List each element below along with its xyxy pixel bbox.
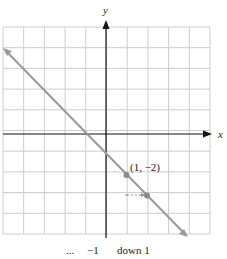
x-axis-arrow-icon — [203, 131, 212, 138]
rise-text: down 1 — [117, 244, 150, 256]
coordinate-graph: x y (1, −2) — [0, 0, 227, 259]
x-axis — [3, 131, 212, 138]
slope-numerator: −1 — [87, 244, 99, 256]
caption-ellipsis: ... — [66, 244, 74, 256]
plotted-line — [3, 48, 188, 237]
y-axis — [103, 20, 110, 238]
run-annotation — [126, 193, 147, 197]
run-start-dot — [126, 194, 128, 196]
y-axis-arrow-icon — [103, 20, 110, 29]
point-label: (1, −2) — [130, 161, 160, 174]
point-1-neg2 — [124, 172, 130, 178]
y-axis-label: y — [102, 4, 108, 16]
point-2-neg3 — [144, 193, 150, 199]
x-axis-label: x — [217, 128, 223, 140]
